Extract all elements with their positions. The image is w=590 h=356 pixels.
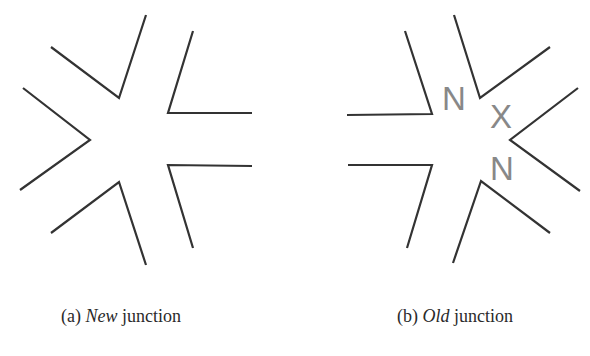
junction-edge [20, 88, 90, 190]
junction-edge [453, 181, 550, 263]
junction-edge [51, 15, 146, 98]
caption-a-prefix: (a) [61, 306, 85, 326]
region-label-x: X [490, 98, 512, 135]
caption-old-junction: (b) Old junction [397, 306, 513, 327]
region-label-n: N [442, 80, 466, 117]
caption-b-prefix: (b) [397, 306, 423, 326]
caption-b-emphasis: Old [423, 306, 450, 326]
junction-edge [168, 165, 252, 248]
caption-a-emphasis: New [85, 306, 117, 326]
caption-a-suffix: junction [118, 306, 182, 326]
junction-edge [347, 31, 432, 115]
caption-new-junction: (a) New junction [61, 306, 181, 327]
junction-figure: NXN (a) New junction (b) Old junction [0, 0, 590, 356]
old-junction-diagram: NXN [347, 15, 580, 263]
junction-edge [454, 15, 550, 98]
junction-edge [348, 165, 432, 248]
junction-edge [510, 88, 580, 191]
region-label-n: N [490, 150, 514, 187]
junction-edge [168, 31, 252, 113]
caption-b-suffix: junction [450, 306, 514, 326]
new-junction-diagram [20, 15, 252, 265]
junction-diagram-canvas: NXN [0, 0, 590, 356]
junction-edge [51, 182, 146, 265]
